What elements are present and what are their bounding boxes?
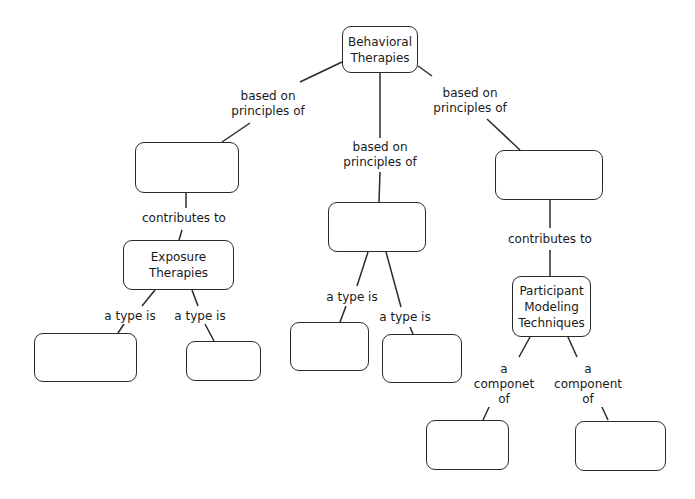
connector-line [483,405,490,420]
concept-node-left[interactable] [135,142,239,193]
concept-node-part_b[interactable] [575,421,666,471]
concept-node-mid_a[interactable] [290,322,369,371]
link-label: a type is [326,290,377,305]
concept-node-exposure[interactable]: Exposure Therapies [123,240,234,290]
link-label: a component of [554,362,622,407]
connector-line [222,123,250,142]
link-label: a type is [379,310,430,325]
connector-line [118,324,124,333]
link-label: contributes to [508,232,592,247]
concept-node-mid[interactable] [328,202,426,252]
connector-line [340,306,346,322]
link-label: a type is [174,309,225,324]
connector-line [410,327,413,334]
connector-line [519,337,530,357]
concept-node-mid_b[interactable] [382,334,462,383]
concept-node-right[interactable] [495,150,603,200]
connector-line [357,252,368,286]
connector-line [568,337,577,357]
connector-line [487,119,520,150]
link-label: a componet of [474,362,534,407]
link-label: based on principles of [231,89,304,119]
link-label: based on principles of [433,86,506,116]
concept-node-participant[interactable]: Participant Modeling Techniques [512,276,591,337]
connector-line [386,252,401,307]
connector-line [300,62,342,82]
link-label: a type is [104,309,155,324]
concept-node-exp_b[interactable] [186,341,261,381]
connector-line [192,290,198,306]
concept-node-part_a[interactable] [426,420,509,470]
connector-line [205,324,214,341]
concept-node-exp_a[interactable] [34,333,137,382]
connector-line [418,66,432,76]
connector-line [142,290,155,306]
connector-line [179,230,182,240]
connector-line [379,172,380,202]
concept-node-root[interactable]: Behavioral Therapies [342,26,418,73]
link-label: based on principles of [343,140,416,170]
connector-line [601,405,608,420]
link-label: contributes to [142,211,226,226]
